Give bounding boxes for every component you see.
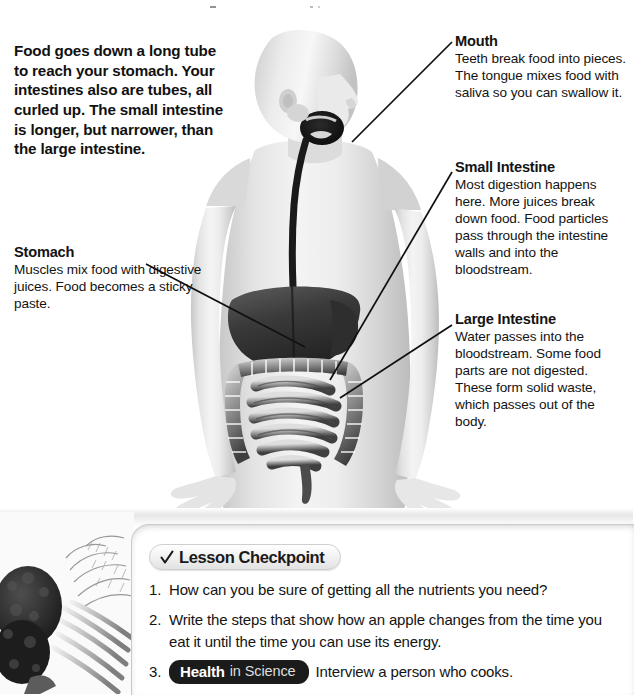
callout-small-intestine-title: Small Intestine (455, 158, 627, 176)
small-intestine-leader-line (330, 172, 452, 380)
salivary-gland (287, 104, 309, 122)
callout-stomach-title: Stomach (14, 243, 209, 261)
checkpoint-item-3-text-wrap: Health in Science Interview a person who… (169, 661, 619, 685)
checkpoint-item-1: 1. How can you be sure of getting all th… (149, 579, 619, 600)
checkpoint-item-2-text: Write the steps that show how an apple c… (169, 609, 619, 652)
mouth-leader-line (352, 42, 452, 142)
vegetables-photo (0, 512, 134, 694)
intro-paragraph: Food goes down a long tube to reach your… (14, 41, 232, 159)
mouth-organ (300, 111, 344, 145)
checkpoint-item-3-text: Interview a person who cooks. (316, 663, 513, 680)
callout-mouth-body: Teeth break food into pieces. The tongue… (455, 51, 627, 102)
large-intestine-organ (225, 364, 250, 464)
large-intestine-leader-line (340, 325, 452, 398)
callout-stomach-body: Muscles mix food with digestive juices. … (14, 262, 209, 313)
checkpoint-item-1-number: 1. (149, 579, 169, 600)
checkpoint-item-1-text: How can you be sure of getting all the n… (169, 579, 619, 600)
callout-large-intestine: Large Intestine Water passes into the bl… (455, 310, 627, 431)
checkmark-icon (160, 550, 174, 565)
digestive-organs (225, 104, 363, 504)
badge-subject-light: in Science (230, 661, 296, 682)
badge-subject-strong: Health (180, 661, 225, 682)
lesson-checkpoint-label: Lesson Checkpoint (179, 548, 324, 567)
esophagus-organ (292, 140, 306, 286)
callout-small-intestine-body: Most digestion happens here. More juices… (455, 177, 627, 279)
checkpoint-item-2: 2. Write the steps that show how an appl… (149, 609, 619, 652)
callout-small-intestine: Small Intestine Most digestion happens h… (455, 158, 627, 279)
lesson-checkpoint-panel: Lesson Checkpoint 1. How can you be sure… (131, 524, 634, 695)
stomach-organ (330, 300, 358, 356)
callout-mouth-title: Mouth (455, 32, 627, 50)
checkpoint-item-3-number: 3. (149, 661, 169, 682)
lesson-checkpoint-list: 1. How can you be sure of getting all th… (149, 579, 619, 694)
checkpoint-item-3: 3. Health in Science Interview a person … (149, 661, 619, 685)
lesson-checkpoint-header: Lesson Checkpoint (149, 544, 341, 570)
callout-large-intestine-title: Large Intestine (455, 310, 627, 328)
callout-large-intestine-body: Water passes into the bloodstream. Some … (455, 329, 627, 431)
liver-organ (228, 287, 360, 369)
callout-mouth: Mouth Teeth break food into pieces. The … (455, 32, 627, 102)
health-in-science-badge: Health in Science (169, 660, 309, 684)
callout-stomach: Stomach Muscles mix food with digestive … (14, 243, 209, 313)
cropped-header-remnant (0, 0, 633, 8)
checkpoint-item-2-number: 2. (149, 609, 169, 630)
small-intestine-organ (252, 381, 336, 466)
